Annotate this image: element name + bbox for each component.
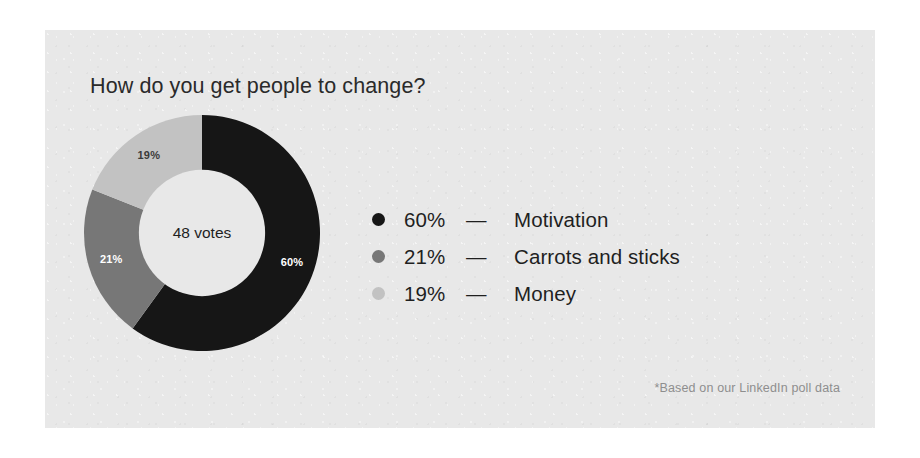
page-title: How do you get people to change? <box>90 74 426 99</box>
legend-label: Carrots and sticks <box>514 245 680 269</box>
legend-bullet-money-icon <box>372 287 385 300</box>
legend-label: Money <box>514 282 576 306</box>
legend-percent: 60% <box>404 208 466 232</box>
legend-bullet-motivation-icon <box>372 213 385 226</box>
legend-label: Motivation <box>514 208 608 232</box>
donut-chart: 60%21%19% 48 votes <box>84 115 320 351</box>
legend-item-carrots-and-sticks[interactable]: 21% — Carrots and sticks <box>372 238 802 275</box>
donut-chart-svg: 60%21%19% 48 votes <box>84 115 320 351</box>
chart-legend: 60% — Motivation 21% — Carrots and stick… <box>372 201 802 312</box>
legend-dash: — <box>466 282 514 306</box>
donut-slice-label: 19% <box>138 149 161 161</box>
legend-dash: — <box>466 208 514 232</box>
donut-slice-label: 60% <box>281 256 304 268</box>
legend-item-money[interactable]: 19% — Money <box>372 275 802 312</box>
legend-item-motivation[interactable]: 60% — Motivation <box>372 201 802 238</box>
donut-center-label: 48 votes <box>173 224 232 241</box>
legend-percent: 21% <box>404 245 466 269</box>
legend-bullet-carrots-and-sticks-icon <box>372 250 385 263</box>
poll-result-card: How do you get people to change? 60%21%1… <box>45 30 875 428</box>
legend-dash: — <box>466 245 514 269</box>
footnote: *Based on our LinkedIn poll data <box>655 381 841 395</box>
donut-slice-label: 21% <box>100 253 123 265</box>
legend-percent: 19% <box>404 282 466 306</box>
